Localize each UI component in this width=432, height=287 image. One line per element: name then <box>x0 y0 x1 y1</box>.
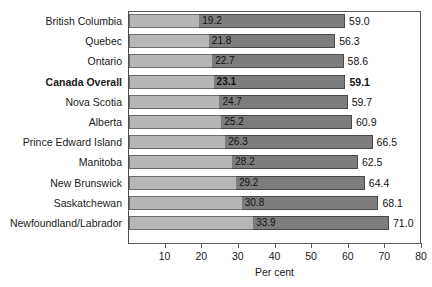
bar-total-value-label: 58.6 <box>344 54 368 68</box>
category-label: New Brunswick <box>0 173 126 193</box>
x-tick-label: 70 <box>369 250 399 262</box>
bar-total-value-label: 71.0 <box>389 216 413 230</box>
category-label: Saskatchewan <box>0 193 126 213</box>
bar-row: 25.260.9 <box>129 112 421 132</box>
category-label: Newfoundland/Labrador <box>0 213 126 233</box>
bar-segment-inner <box>129 34 209 48</box>
stacked-bar <box>129 14 345 28</box>
x-tick-label: 60 <box>333 250 363 262</box>
x-tick-label: 20 <box>186 250 216 262</box>
bar-segment-inner <box>129 176 236 190</box>
bar-row: 29.264.4 <box>129 173 421 193</box>
bar-total-value-label: 64.4 <box>365 176 389 190</box>
category-label: Nova Scotia <box>0 92 126 112</box>
category-label: Manitoba <box>0 152 126 172</box>
stacked-bar <box>129 34 335 48</box>
bar-inner-value-label: 23.1 <box>214 75 236 89</box>
stacked-bar <box>129 54 344 68</box>
bar-total-value-label: 62.5 <box>358 155 382 169</box>
bar-row: 30.868.1 <box>129 193 421 213</box>
bar-segment-inner <box>129 115 221 129</box>
category-label: Alberta <box>0 112 126 132</box>
x-tick <box>421 243 422 248</box>
bar-total-value-label: 56.3 <box>335 34 359 48</box>
bar-segment-inner <box>129 196 242 210</box>
x-tick <box>348 243 349 248</box>
bar-total-value-label: 68.1 <box>378 196 402 210</box>
bar-row: 26.366.5 <box>129 132 421 152</box>
x-tick <box>311 243 312 248</box>
bar-inner-value-label: 33.9 <box>253 216 275 230</box>
bar-inner-value-label: 22.7 <box>212 54 234 68</box>
bar-segment-inner <box>129 14 199 28</box>
category-label: Canada Overall <box>0 72 126 92</box>
bar-row: 24.759.7 <box>129 92 421 112</box>
stacked-bar <box>129 135 373 149</box>
x-tick <box>201 243 202 248</box>
x-tick <box>238 243 239 248</box>
x-tick-label: 30 <box>223 250 253 262</box>
bar-total-value-label: 60.9 <box>352 115 376 129</box>
bar-row: 22.758.6 <box>129 51 421 71</box>
bar-segment-inner <box>129 155 232 169</box>
bar-inner-value-label: 24.7 <box>219 95 241 109</box>
bar-total-value-label: 66.5 <box>373 135 397 149</box>
bar-total-value-label: 59.1 <box>345 75 369 89</box>
bar-segment-inner <box>129 75 214 89</box>
bar-inner-value-label: 26.3 <box>225 135 247 149</box>
x-tick <box>165 243 166 248</box>
bar-inner-value-label: 28.2 <box>232 155 254 169</box>
bar-row: 33.971.0 <box>129 213 421 233</box>
bar-chart: British ColumbiaQuebecOntarioCanada Over… <box>0 0 432 287</box>
category-label: Prince Edward Island <box>0 132 126 152</box>
stacked-bar <box>129 75 345 89</box>
bar-inner-value-label: 29.2 <box>236 176 258 190</box>
bar-total-value-label: 59.7 <box>348 95 372 109</box>
bar-inner-value-label: 19.2 <box>199 14 221 28</box>
category-axis-labels: British ColumbiaQuebecOntarioCanada Over… <box>0 11 126 233</box>
bar-segment-inner <box>129 135 225 149</box>
bar-row: 19.259.0 <box>129 11 421 31</box>
bar-row: 21.856.3 <box>129 31 421 51</box>
bar-segment-inner <box>129 54 212 68</box>
plot-area: 19.259.021.856.322.758.623.159.124.759.7… <box>128 11 421 243</box>
x-tick <box>275 243 276 248</box>
bar-row: 28.262.5 <box>129 152 421 172</box>
x-tick <box>384 243 385 248</box>
x-tick-label: 10 <box>150 250 180 262</box>
x-tick-label: 80 <box>406 250 432 262</box>
bar-inner-value-label: 25.2 <box>221 115 243 129</box>
bar-inner-value-label: 30.8 <box>242 196 264 210</box>
bar-segment-inner <box>129 95 219 109</box>
bar-total-value-label: 59.0 <box>345 14 369 28</box>
bar-inner-value-label: 21.8 <box>209 34 231 48</box>
bar-segment-inner <box>129 216 253 230</box>
bar-row: 23.159.1 <box>129 72 421 92</box>
x-tick-label: 50 <box>296 250 326 262</box>
category-label: British Columbia <box>0 11 126 31</box>
category-label: Ontario <box>0 51 126 71</box>
x-axis-title: Per cent <box>128 266 421 278</box>
category-label: Quebec <box>0 31 126 51</box>
x-tick-label: 40 <box>260 250 290 262</box>
